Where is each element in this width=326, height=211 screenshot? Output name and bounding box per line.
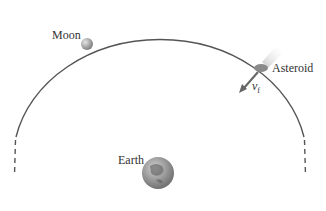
asteroid-icon bbox=[254, 64, 268, 72]
asteroid-label: Asteroid bbox=[272, 61, 313, 76]
earth-label: Earth bbox=[118, 153, 144, 168]
velocity-label: vf bbox=[252, 79, 260, 95]
moon-label: Moon bbox=[52, 28, 81, 43]
orbit-dashed-left bbox=[15, 140, 16, 175]
orbit-dashed-right bbox=[305, 140, 306, 175]
moon-icon bbox=[81, 38, 93, 50]
orbit-diagram bbox=[0, 0, 326, 211]
velocity-subscript: f bbox=[257, 86, 260, 95]
orbit-arc bbox=[16, 40, 304, 137]
